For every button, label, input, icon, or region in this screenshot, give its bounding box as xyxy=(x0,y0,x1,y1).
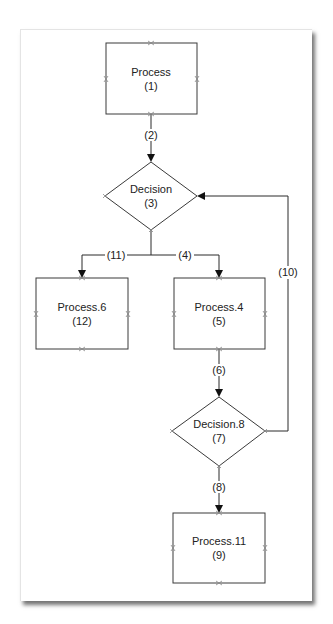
edge-label: (8) xyxy=(212,481,225,493)
edge-2[interactable]: (2) xyxy=(142,114,160,162)
node-name: Decision xyxy=(130,183,172,195)
node-name: Process.6 xyxy=(58,301,107,313)
edge-label: (10) xyxy=(278,266,298,278)
node-decision-3[interactable]: Decision (3) xyxy=(103,162,197,232)
node-number: (5) xyxy=(212,315,225,327)
node-name: Process.4 xyxy=(195,301,244,313)
arrowhead-icon xyxy=(215,270,223,278)
node-number: (12) xyxy=(72,315,92,327)
node-name: Process.11 xyxy=(192,535,246,547)
edge-label: (6) xyxy=(212,364,225,376)
arrowhead-icon xyxy=(197,192,205,200)
edge-11[interactable]: (11) xyxy=(78,249,151,278)
node-decision-8[interactable]: Decision.8 (7) xyxy=(170,397,267,468)
node-name: Decision.8 xyxy=(193,418,244,430)
node-process-11[interactable]: Process.11 (9) xyxy=(171,511,267,585)
arrowhead-icon xyxy=(78,270,86,278)
edge-label: (2) xyxy=(144,129,157,141)
edge-label: (4) xyxy=(178,249,191,261)
edge-6[interactable]: (6) xyxy=(210,349,228,397)
node-number: (3) xyxy=(144,197,157,209)
edge-4[interactable]: (4) xyxy=(151,249,223,278)
node-process-6[interactable]: Process.6 (12) xyxy=(34,276,130,351)
edge-8[interactable]: (8) xyxy=(210,466,228,513)
arrowhead-icon xyxy=(215,505,223,513)
node-name: Process xyxy=(131,66,171,78)
node-process-4[interactable]: Process.4 (5) xyxy=(172,276,267,351)
node-process-1[interactable]: Process (1) xyxy=(104,41,199,116)
flowchart: (2) (11) (4) (6) (8) (10) xyxy=(0,0,333,624)
node-number: (1) xyxy=(144,80,157,92)
edge-label: (11) xyxy=(107,249,126,261)
arrowhead-icon xyxy=(147,154,155,162)
arrowhead-icon xyxy=(215,389,223,397)
node-number: (7) xyxy=(212,432,225,444)
node-number: (9) xyxy=(212,549,225,561)
